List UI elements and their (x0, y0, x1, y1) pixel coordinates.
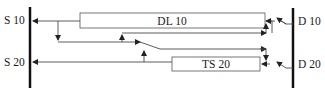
label-d20: D 20 (298, 58, 321, 70)
label-s10: S 10 (4, 14, 25, 26)
signal-flow-diagram: S 10 S 20 D 10 D 20 DL 10 TS 20 (0, 0, 325, 93)
label-d10: D 10 (298, 15, 321, 27)
label-s20: S 20 (4, 56, 25, 68)
block-dl10-label: DL 10 (157, 15, 187, 27)
block-ts20-label: TS 20 (202, 58, 230, 70)
